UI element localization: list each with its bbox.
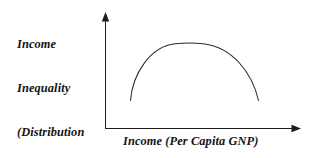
x-axis-arrow-icon (292, 125, 302, 132)
y-axis-label-line-2: Inequality (17, 81, 84, 96)
y-axis-arrow-icon (102, 12, 109, 22)
y-axis-label-line-3: (Distribution (17, 125, 84, 140)
kuznets-curve-figure: Income Inequality (Distribution of Incom… (0, 0, 313, 158)
y-axis-label: Income Inequality (Distribution of Incom… (17, 8, 84, 158)
kuznets-curve-path (131, 43, 259, 100)
x-axis-label: Income (Per Capita GNP) (123, 134, 258, 149)
y-axis-label-line-1: Income (17, 37, 84, 52)
